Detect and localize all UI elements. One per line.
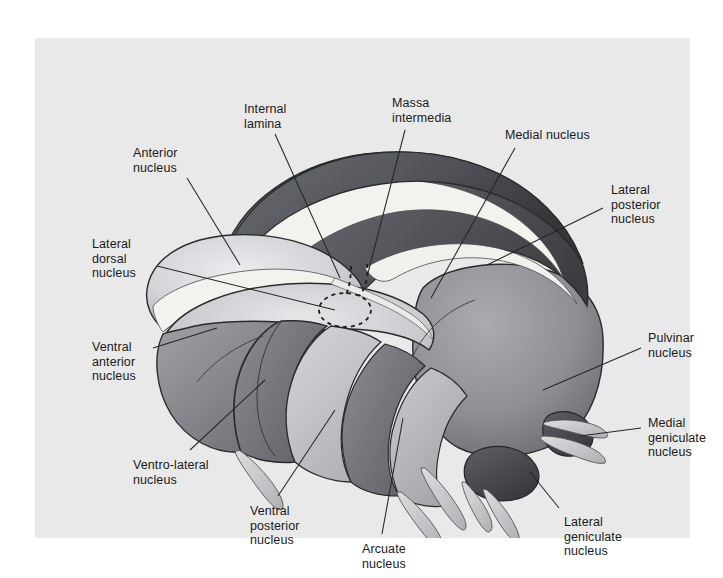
label-massa-intermedia: Massa intermedia (392, 96, 451, 125)
leader-lateral-geniculate-nucleus (530, 472, 559, 508)
label-medial-geniculate-nucleus: Medial geniculate nucleus (648, 416, 706, 460)
label-arcuate-nucleus: Arcuate nucleus (362, 542, 406, 571)
label-lateral-dorsal-nucleus: Lateral dorsal nucleus (92, 237, 136, 281)
label-medial-nucleus: Medial nucleus (505, 128, 590, 143)
label-anterior-nucleus: Anterior nucleus (133, 146, 178, 175)
thalamus-body (147, 152, 608, 538)
label-internal-lamina: Internal lamina (244, 102, 287, 131)
label-ventral-posterior-nucleus: Ventral posterior nucleus (250, 504, 300, 548)
label-lateral-geniculate-nucleus: Lateral geniculate nucleus (564, 515, 622, 559)
lateral-geniculate-nucleus-shape (464, 446, 539, 500)
label-pulvinar-nucleus: Pulvinar nucleus (648, 331, 694, 360)
label-ventro-lateral-nucleus: Ventro-lateral nucleus (133, 458, 209, 487)
label-ventral-anterior-nucleus: Ventral anterior nucleus (92, 340, 136, 384)
label-lateral-posterior-nucleus: Lateral posterior nucleus (611, 183, 661, 227)
figure-panel: Anterior nucleusInternal laminaMassa int… (35, 38, 690, 538)
